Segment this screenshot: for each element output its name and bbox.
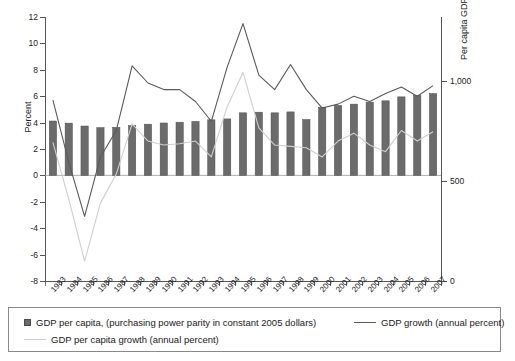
chart-figure: Percent Per capita GDP (dollars) -8-6-4-…	[0, 0, 515, 361]
y-axis-left-tick-label: 4	[0, 119, 38, 128]
y-axis-left-tick-label: 10	[0, 39, 38, 48]
y-axis-right-line	[441, 17, 442, 281]
legend-item-gdp-growth: GDP growth (annual percent)	[354, 316, 504, 328]
bar-gdp-per-capita	[334, 105, 341, 175]
legend-line-marker-icon	[354, 322, 376, 323]
y-axis-right-tick-label: 500	[450, 177, 464, 186]
y-axis-left-tick-label: 2	[0, 145, 38, 154]
legend-item-gdp-per-capita: GDP per capita, (purchasing power parity…	[24, 316, 316, 328]
y-axis-right-tick	[442, 181, 447, 182]
bar-gdp-per-capita	[239, 113, 246, 176]
y-axis-left-tick-label: 0	[0, 171, 38, 180]
bar-gdp-per-capita	[398, 97, 405, 176]
chart-legend: GDP per capita, (purchasing power parity…	[8, 307, 501, 352]
bar-gdp-per-capita	[319, 107, 326, 175]
legend-line-light-marker-icon	[24, 339, 46, 340]
legend-label-gdp-per-capita-growth: GDP per capita growth (annual percent)	[51, 334, 219, 345]
bar-gdp-per-capita	[382, 101, 389, 176]
bar-gdp-per-capita	[429, 94, 436, 176]
bar-gdp-per-capita	[366, 102, 373, 175]
y-axis-left-tick-label: 6	[0, 92, 38, 101]
y-axis-left-tick-label: -8	[0, 277, 38, 286]
bar-gdp-per-capita	[192, 121, 199, 175]
y-axis-left-tick-label: 8	[0, 66, 38, 75]
bar-gdp-per-capita	[49, 121, 56, 175]
bar-gdp-per-capita	[414, 95, 421, 175]
bar-gdp-per-capita	[81, 126, 88, 175]
bar-gdp-per-capita	[160, 123, 167, 175]
bar-gdp-per-capita	[271, 113, 278, 176]
y-axis-left-tick-label: -2	[0, 198, 38, 207]
bar-gdp-per-capita	[224, 119, 231, 175]
y-axis-right-tick-label: 1,000	[450, 77, 471, 86]
legend-label-gdp-growth: GDP growth (annual percent)	[381, 317, 504, 328]
legend-label-gdp-per-capita: GDP per capita, (purchasing power parity…	[36, 317, 316, 328]
y-axis-right-tick-label: 0	[450, 277, 455, 286]
bar-gdp-per-capita	[287, 112, 294, 175]
y-axis-right-title: Per capita GDP (dollars)	[459, 0, 469, 60]
y-axis-right-tick	[442, 81, 447, 82]
y-axis-left-tick-label: -6	[0, 251, 38, 260]
bar-gdp-per-capita	[65, 123, 72, 175]
legend-item-gdp-per-capita-growth: GDP per capita growth (annual percent)	[24, 333, 219, 345]
y-axis-left-tick-label: -4	[0, 224, 38, 233]
x-axis-tick	[45, 282, 46, 286]
bar-gdp-per-capita	[144, 124, 151, 175]
legend-square-marker-icon	[24, 319, 31, 326]
bar-gdp-per-capita	[176, 122, 183, 175]
bar-gdp-per-capita	[350, 104, 357, 175]
plot-area	[45, 17, 441, 281]
y-axis-left-tick-label: 12	[0, 13, 38, 22]
plot-svg	[45, 17, 441, 281]
bar-gdp-per-capita	[255, 112, 262, 175]
